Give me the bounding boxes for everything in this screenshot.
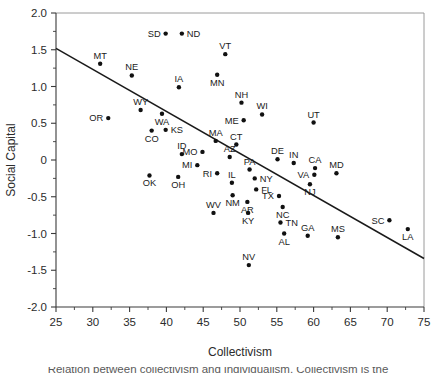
data-point-marker bbox=[211, 211, 215, 215]
data-point-label: TX bbox=[262, 191, 274, 201]
data-point-label: ME bbox=[225, 116, 239, 126]
data-point: AZ bbox=[224, 144, 236, 159]
data-point-marker bbox=[230, 193, 234, 197]
figure-caption-clipped: Relation between collectivism and indivi… bbox=[0, 367, 436, 376]
x-tick-label: 50 bbox=[234, 316, 247, 328]
data-point-label: GA bbox=[301, 223, 315, 233]
data-point-label: KS bbox=[171, 125, 183, 135]
data-point: WV bbox=[206, 200, 222, 215]
plot-canvas: 2530354045505560657075-2.0-1.5-1.0-0.500… bbox=[0, 0, 436, 376]
data-point: RI bbox=[203, 169, 220, 179]
data-point-marker bbox=[247, 263, 251, 267]
data-point: VT bbox=[219, 41, 231, 56]
data-point: DE bbox=[271, 146, 284, 161]
data-point: AL bbox=[278, 231, 289, 246]
data-point: MI bbox=[182, 160, 200, 170]
data-point: CO bbox=[145, 128, 159, 143]
data-point-marker bbox=[214, 139, 218, 143]
data-point-label: TN bbox=[285, 218, 297, 228]
data-point-label: ND bbox=[187, 29, 201, 39]
data-point-label: WI bbox=[256, 101, 267, 111]
data-point: NE bbox=[125, 62, 138, 77]
data-point-marker bbox=[292, 161, 296, 165]
data-point-marker bbox=[180, 31, 184, 35]
plot-border bbox=[56, 13, 424, 307]
data-point-marker bbox=[306, 234, 310, 238]
data-point: SD bbox=[148, 29, 168, 39]
data-point-label: OK bbox=[143, 178, 157, 188]
data-point-marker bbox=[275, 157, 279, 161]
data-point-marker bbox=[336, 235, 340, 239]
data-point: IA bbox=[175, 74, 185, 89]
data-point-marker bbox=[163, 31, 167, 35]
data-point: OK bbox=[143, 173, 157, 188]
data-point-marker bbox=[278, 220, 282, 224]
data-point-marker bbox=[195, 163, 199, 167]
data-point-marker bbox=[227, 155, 231, 159]
data-point-marker bbox=[215, 73, 219, 77]
data-point-label: UT bbox=[307, 110, 320, 120]
data-point-label: PA bbox=[244, 157, 257, 167]
data-point-label: NJ bbox=[304, 187, 315, 197]
x-tick-label: 60 bbox=[307, 316, 320, 328]
data-point-marker bbox=[147, 173, 151, 177]
x-tick-label: 25 bbox=[50, 316, 63, 328]
y-tick-label: -0.5 bbox=[27, 191, 47, 203]
data-point: NM bbox=[225, 193, 239, 208]
data-point-marker bbox=[160, 111, 164, 115]
scatter-plot-figure: 2530354045505560657075-2.0-1.5-1.0-0.500… bbox=[0, 0, 436, 376]
data-point-marker bbox=[98, 62, 102, 66]
regression-line bbox=[56, 48, 424, 258]
plot-axes bbox=[56, 13, 424, 307]
data-point-marker bbox=[247, 167, 251, 171]
y-tick-label: -1.5 bbox=[27, 264, 47, 276]
data-point-marker bbox=[280, 205, 284, 209]
data-point: OR bbox=[89, 113, 110, 123]
data-point-label: NY bbox=[260, 174, 273, 184]
y-tick-label: -1.0 bbox=[27, 228, 47, 240]
axis-ticks bbox=[51, 13, 424, 312]
data-point-marker bbox=[223, 52, 227, 56]
axis-tick-labels: 2530354045505560657075-2.0-1.5-1.0-0.500… bbox=[27, 7, 430, 328]
x-tick-label: 35 bbox=[123, 316, 136, 328]
data-point-label: NE bbox=[125, 62, 138, 72]
data-point-label: KY bbox=[242, 216, 254, 226]
x-tick-label: 40 bbox=[160, 316, 173, 328]
data-point-label: AZ bbox=[224, 144, 236, 154]
y-tick-label: 0.5 bbox=[31, 117, 47, 129]
data-point-label: WA bbox=[155, 117, 170, 127]
y-tick-label: 1.0 bbox=[31, 81, 47, 93]
data-point-label: OH bbox=[171, 180, 185, 190]
y-tick-label: 1.5 bbox=[31, 44, 47, 56]
data-point-label: LA bbox=[402, 232, 414, 242]
x-tick-label: 65 bbox=[344, 316, 357, 328]
data-point-label: SC bbox=[371, 216, 384, 226]
data-point-label: ID bbox=[177, 141, 187, 151]
x-tick-label: 55 bbox=[270, 316, 283, 328]
data-point-marker bbox=[308, 182, 312, 186]
data-point: WY bbox=[133, 97, 148, 112]
data-point-label: DE bbox=[271, 146, 284, 156]
data-point-marker bbox=[245, 200, 249, 204]
data-point-marker bbox=[130, 73, 134, 77]
data-point-label: AL bbox=[278, 237, 289, 247]
data-point: VA bbox=[298, 170, 317, 180]
data-point: NJ bbox=[304, 182, 315, 197]
data-point-marker bbox=[138, 108, 142, 112]
data-point-label: IL bbox=[228, 170, 236, 180]
data-point-marker bbox=[246, 211, 250, 215]
data-point-marker bbox=[253, 176, 257, 180]
data-point-label: CA bbox=[309, 155, 323, 165]
data-point-label: MN bbox=[210, 78, 224, 88]
data-point-label: MI bbox=[182, 160, 192, 170]
y-axis-title: Social Capital bbox=[4, 123, 18, 196]
data-point-label: IN bbox=[289, 150, 298, 160]
data-point-marker bbox=[387, 218, 391, 222]
x-tick-label: 30 bbox=[86, 316, 99, 328]
y-tick-label: 2.0 bbox=[31, 7, 47, 19]
data-point-label: NM bbox=[225, 198, 239, 208]
data-point: IL bbox=[228, 170, 236, 185]
data-point-label: MD bbox=[329, 160, 344, 170]
data-point-marker bbox=[215, 171, 219, 175]
data-point: MD bbox=[329, 160, 344, 175]
